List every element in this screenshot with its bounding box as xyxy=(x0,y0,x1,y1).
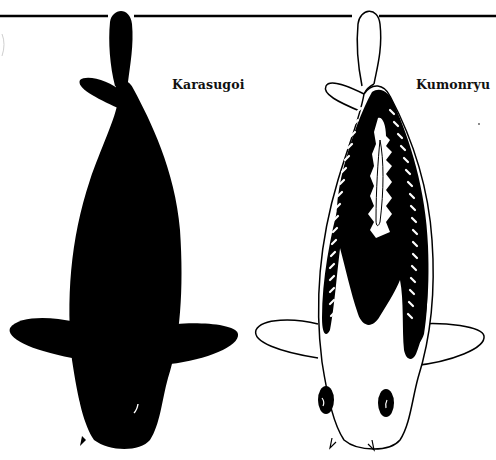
koi-drawing xyxy=(0,0,496,460)
left-eye-patch xyxy=(318,386,334,414)
left-eye-mark xyxy=(76,396,79,408)
koi-illustration: Karasugoi Kumonryu xyxy=(0,0,496,460)
edge-mark xyxy=(2,34,4,56)
kumonryu-label: Kumonryu xyxy=(416,77,490,92)
karasugoi-label: Karasugoi xyxy=(172,77,245,92)
